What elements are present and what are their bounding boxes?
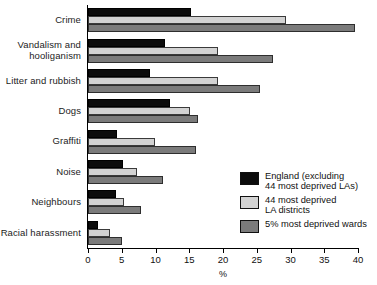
x-axis-tick <box>223 248 224 253</box>
bar-group <box>88 8 358 32</box>
legend-swatch <box>240 172 259 185</box>
legend-label: England (excluding 44 most deprived LAs) <box>265 171 358 192</box>
x-axis-tick <box>291 248 292 253</box>
category-label: Dogs <box>58 106 81 117</box>
bar <box>88 229 110 237</box>
bar <box>88 146 196 154</box>
category-label: Noise <box>56 167 81 178</box>
category-axis-labels: CrimeVandalism andhooliganismLitter and … <box>0 5 85 248</box>
bar-group <box>88 69 358 93</box>
legend-swatch <box>240 220 259 233</box>
x-axis-tick-label: 20 <box>218 254 229 265</box>
bar <box>88 160 123 168</box>
x-axis-tick-label: 10 <box>150 254 161 265</box>
category-label: Neighbours <box>31 197 81 208</box>
legend-swatch <box>240 196 259 209</box>
bar <box>88 85 260 93</box>
category-label: Litter and rubbish <box>6 76 81 87</box>
x-axis-tick <box>324 248 325 253</box>
bar <box>88 168 137 176</box>
x-axis-tick-label: 15 <box>184 254 195 265</box>
legend-label: 5% most deprived wards <box>265 219 367 229</box>
bar <box>88 55 273 63</box>
bar-group <box>88 99 358 123</box>
bar-group <box>88 130 358 154</box>
bar <box>88 8 191 16</box>
bar <box>88 69 150 77</box>
x-axis-tick <box>257 248 258 253</box>
x-axis-tick-label: 35 <box>319 254 330 265</box>
bar <box>88 221 98 229</box>
bar <box>88 130 117 138</box>
bar <box>88 138 155 146</box>
category-label: Graffiti <box>52 136 81 147</box>
bar <box>88 190 116 198</box>
x-axis-tick <box>189 248 190 253</box>
bar <box>88 237 122 245</box>
x-axis-tick <box>88 248 89 253</box>
category-label: Racial harassment <box>1 228 81 239</box>
bar <box>88 77 218 85</box>
legend-item: 44 most deprived LA districts <box>240 195 377 216</box>
legend-label: 44 most deprived LA districts <box>265 195 336 216</box>
legend-item: England (excluding 44 most deprived LAs) <box>240 171 377 192</box>
bar <box>88 47 218 55</box>
x-axis-title: % <box>219 269 227 279</box>
bar <box>88 39 165 47</box>
bar-chart: CrimeVandalism andhooliganismLitter and … <box>0 0 377 285</box>
x-axis-tick-label: 30 <box>285 254 296 265</box>
x-axis-tick-label: 25 <box>251 254 262 265</box>
category-label: Vandalism andhooliganism <box>18 40 81 61</box>
x-axis-tick <box>358 248 359 253</box>
bar <box>88 16 286 24</box>
x-axis-tick-label: 40 <box>353 254 364 265</box>
bar <box>88 206 141 214</box>
bar <box>88 24 355 32</box>
x-axis-tick-label: 0 <box>85 254 90 265</box>
bar-group <box>88 39 358 63</box>
y-axis-line <box>87 5 88 249</box>
legend-item: 5% most deprived wards <box>240 219 377 233</box>
chart-legend: England (excluding 44 most deprived LAs)… <box>240 171 377 236</box>
x-axis-tick-label: 5 <box>119 254 124 265</box>
bar <box>88 176 163 184</box>
bar <box>88 115 198 123</box>
x-axis-tick <box>122 248 123 253</box>
bar <box>88 99 170 107</box>
x-axis-tick <box>156 248 157 253</box>
bar <box>88 198 124 206</box>
bar <box>88 107 190 115</box>
category-label: Crime <box>55 15 81 26</box>
